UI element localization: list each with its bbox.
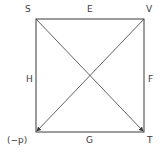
square-diagram	[0, 0, 162, 156]
diagonal-s-to-t	[36, 19, 143, 131]
edge-label-top: E	[87, 5, 93, 14]
corner-label-bottom-right: T	[147, 136, 153, 145]
edge-label-right: F	[148, 75, 153, 84]
edge-label-bottom: G	[86, 136, 93, 145]
diagonal-v-to-bottom-left	[37, 19, 144, 131]
corner-label-top-right: V	[146, 5, 152, 14]
edge-label-left: H	[26, 75, 33, 84]
corner-label-top-left: S	[25, 5, 31, 14]
corner-label-bottom-left: (−p)	[7, 136, 27, 145]
